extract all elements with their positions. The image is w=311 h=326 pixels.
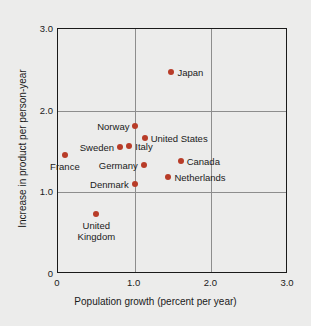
data-point-label: United Kingdom (66, 220, 126, 242)
data-point-label: Italy (135, 140, 152, 151)
data-point-label: France (35, 161, 95, 172)
y-tick-label: 3.0 (40, 23, 53, 34)
data-point-label: Germany (99, 159, 138, 170)
data-point-label: Norway (97, 121, 129, 132)
data-point (132, 123, 138, 129)
x-tick-label: 0 (54, 277, 59, 288)
data-point (165, 174, 171, 180)
gridline-horizontal (58, 192, 286, 193)
data-point (62, 152, 68, 158)
y-axis-label: Increase in product per person-year (17, 39, 28, 259)
x-axis-label: Population growth (percent per year) (0, 296, 311, 307)
data-point (132, 181, 138, 187)
data-point-label: Netherlands (174, 171, 225, 182)
data-point (168, 69, 174, 75)
data-point-label: Denmark (90, 179, 129, 190)
x-tick-label: 2.0 (204, 277, 217, 288)
y-tick-label: 1.0 (40, 186, 53, 197)
x-tick-label: 1.0 (127, 277, 140, 288)
plot-area: JapanNorwayUnited StatesSwedenItalyCanad… (57, 28, 287, 273)
data-point (93, 211, 99, 217)
data-point (126, 143, 132, 149)
x-axis-tick-labels: 01.02.03.0 (0, 277, 311, 291)
data-point (178, 158, 184, 164)
y-tick-label: 2.0 (40, 104, 53, 115)
data-point (117, 144, 123, 150)
gridline-horizontal (58, 111, 286, 112)
data-point-label: Japan (177, 67, 203, 78)
gridline-vertical (211, 29, 212, 272)
data-point-label: Sweden (80, 141, 114, 152)
scatter-chart: 01.02.03.0 JapanNorwayUnited StatesSwede… (0, 0, 311, 326)
data-point (141, 162, 147, 168)
data-point-label: United States (151, 132, 208, 143)
x-tick-label: 3.0 (280, 277, 293, 288)
data-point-label: Canada (187, 156, 220, 167)
